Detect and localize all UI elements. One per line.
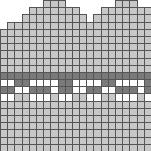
knitting-chart-grid	[0, 0, 151, 151]
grid-cell	[144, 144, 151, 151]
